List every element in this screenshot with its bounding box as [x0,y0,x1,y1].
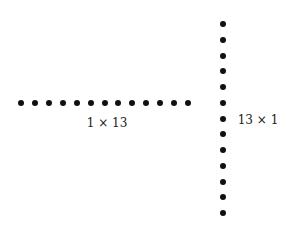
dot [46,100,52,106]
dot [220,210,226,216]
dot [60,100,66,106]
dot [220,21,226,27]
dot [115,100,121,106]
dot [102,100,108,106]
dot [143,100,149,106]
dot [171,100,177,106]
dot [220,68,226,74]
dot [74,100,80,106]
dot [220,163,226,169]
dot [220,37,226,43]
dot [32,100,38,106]
dot [220,194,226,200]
array-diagram: 1 × 13 13 × 1 [0,0,295,232]
dot [129,100,135,106]
dot [220,131,226,137]
column-array-label: 13 × 1 [238,114,279,126]
dot [220,84,226,90]
dot [18,100,24,106]
row-array-label: 1 × 13 [87,117,128,129]
dot [157,100,163,106]
dot [220,53,226,59]
dot [185,100,191,106]
dot [220,100,226,106]
dot [220,147,226,153]
dot [220,179,226,185]
dot [220,116,226,122]
dot [88,100,94,106]
